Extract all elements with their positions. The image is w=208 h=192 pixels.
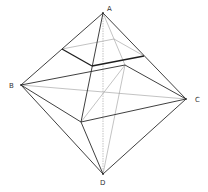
section-front-left xyxy=(62,49,92,66)
edge-b-f xyxy=(21,85,81,122)
edge-b-d xyxy=(21,85,103,174)
section-back-edge xyxy=(62,39,114,49)
vertex-d xyxy=(102,173,104,175)
label-a: A xyxy=(107,5,112,13)
vertices xyxy=(20,12,187,175)
edge-f-c xyxy=(81,99,186,122)
section-back-right xyxy=(114,39,144,56)
vertex-c xyxy=(185,98,187,100)
label-c: C xyxy=(195,96,200,104)
visible-edges xyxy=(21,13,186,174)
vertex-b xyxy=(20,84,22,86)
octahedron-diagram: A B C D xyxy=(0,0,208,192)
edge-c-d xyxy=(103,99,186,174)
vertex-a xyxy=(102,12,104,14)
edge-b-e xyxy=(21,65,125,85)
hidden-edges xyxy=(21,13,186,174)
edge-f-d xyxy=(81,122,103,174)
edge-e-c xyxy=(125,65,186,99)
section-front-right xyxy=(92,56,144,66)
edge-a-c xyxy=(103,13,186,99)
diagonal-b-c xyxy=(21,85,186,99)
label-d: D xyxy=(100,179,105,187)
label-b: B xyxy=(9,82,14,90)
